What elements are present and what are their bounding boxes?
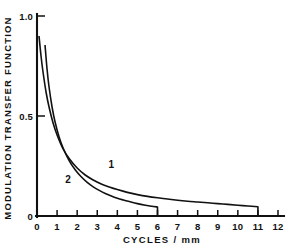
x-axis-title: CYCLES / mm bbox=[123, 234, 201, 245]
x-tick-label-12: 12 bbox=[273, 221, 284, 232]
x-tick-label-6: 6 bbox=[155, 221, 160, 232]
x-tick-label-4: 4 bbox=[115, 221, 121, 232]
y-axis-tick-labels: 00.51.0 bbox=[19, 11, 33, 222]
y-tick-label-1.0: 1.0 bbox=[19, 11, 33, 22]
y-axis-ticks bbox=[37, 16, 45, 116]
x-axis-tick-labels: 0123456789101112 bbox=[34, 221, 283, 232]
y-axis-title: MODULATION TRANSFER FUNCTION bbox=[2, 16, 13, 219]
x-tick-label-5: 5 bbox=[135, 221, 141, 232]
curve-label-1: 1 bbox=[109, 159, 115, 170]
y-tick-label-0: 0 bbox=[28, 211, 33, 222]
curve-1 bbox=[39, 36, 258, 216]
x-tick-label-2: 2 bbox=[74, 221, 79, 232]
x-tick-label-1: 1 bbox=[54, 221, 60, 232]
y-tick-label-0.5: 0.5 bbox=[19, 111, 33, 122]
x-tick-label-8: 8 bbox=[195, 221, 200, 232]
x-tick-label-10: 10 bbox=[232, 221, 243, 232]
curve-label-2: 2 bbox=[65, 174, 71, 185]
mtf-chart-figure: 00.51.0 0123456789101112 12 CYCLES / mm … bbox=[0, 0, 291, 249]
x-tick-label-0: 0 bbox=[34, 221, 39, 232]
curve-2 bbox=[45, 45, 157, 216]
x-tick-label-3: 3 bbox=[95, 221, 100, 232]
x-tick-label-9: 9 bbox=[215, 221, 220, 232]
data-curves bbox=[39, 36, 258, 216]
chart-canvas: 00.51.0 0123456789101112 12 CYCLES / mm … bbox=[0, 0, 291, 249]
x-tick-label-7: 7 bbox=[175, 221, 180, 232]
x-tick-label-11: 11 bbox=[253, 221, 264, 232]
